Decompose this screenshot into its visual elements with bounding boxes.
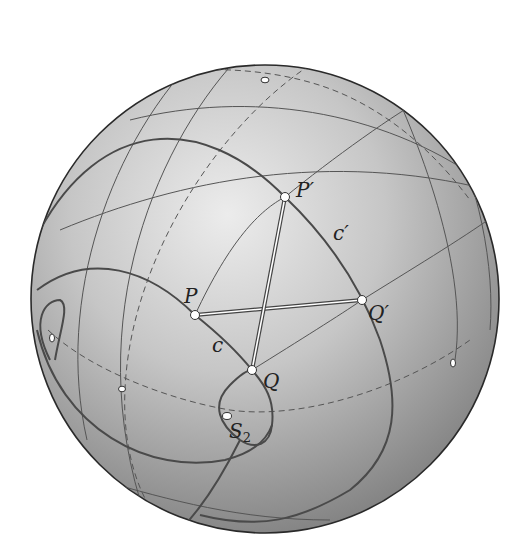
- label-c-prime: c′: [333, 221, 349, 245]
- label-Q-prime: Q′: [368, 301, 389, 325]
- label-S2-main: S: [229, 419, 243, 443]
- marker-left: [50, 334, 55, 342]
- label-P-prime: P′: [295, 178, 314, 202]
- label-P: P: [183, 284, 198, 308]
- point-Q-prime: [358, 296, 367, 305]
- marker-top: [261, 77, 269, 83]
- label-c: c: [212, 333, 223, 357]
- point-P: [191, 311, 200, 320]
- label-S2-sub: 2: [243, 430, 251, 445]
- sphere-figure: P P′ Q Q′ c c′ S2: [0, 0, 528, 545]
- label-Q: Q: [263, 369, 279, 393]
- point-P-prime: [281, 193, 290, 202]
- marker-right: [451, 359, 456, 367]
- marker-left-low: [119, 386, 126, 392]
- sphere-diagram: P P′ Q Q′ c c′ S2: [0, 0, 528, 545]
- point-Q: [248, 366, 257, 375]
